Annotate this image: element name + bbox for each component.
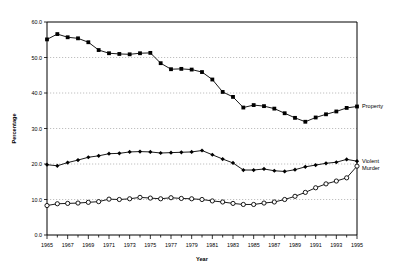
data-point: [200, 197, 204, 201]
data-point: [345, 106, 349, 110]
x-tick-label: 1993: [330, 242, 342, 248]
data-point: [324, 182, 328, 186]
data-point: [231, 95, 235, 99]
data-point: [107, 51, 111, 55]
data-point: [45, 203, 49, 207]
legend-label-murder: Murder: [362, 165, 380, 171]
x-tick-label: 1983: [227, 242, 239, 248]
x-tick-label: 1981: [206, 242, 218, 248]
x-tick-label: 1991: [310, 242, 322, 248]
data-point: [345, 157, 349, 161]
data-point: [159, 197, 163, 201]
plot-border: [47, 22, 357, 235]
data-point: [334, 160, 338, 164]
data-point: [97, 200, 101, 204]
data-point: [221, 157, 225, 161]
data-point: [76, 158, 80, 162]
data-point: [138, 195, 142, 199]
x-tick-label: 1971: [103, 242, 115, 248]
data-point: [262, 201, 266, 205]
data-point: [97, 154, 101, 158]
data-point: [283, 169, 287, 173]
data-point: [107, 197, 111, 201]
data-point: [272, 169, 276, 173]
legend-label-violent: Violent: [362, 158, 379, 164]
data-point: [138, 149, 142, 153]
data-point: [76, 201, 80, 205]
data-point: [334, 110, 338, 114]
y-tick-label: 20.0: [32, 161, 43, 167]
data-point: [107, 152, 111, 156]
x-tick-label: 1973: [124, 242, 136, 248]
data-point: [200, 70, 204, 74]
legend-layer: PropertyViolentMurder: [362, 103, 383, 170]
data-point: [179, 196, 183, 200]
data-point: [334, 179, 338, 183]
data-point: [314, 163, 318, 167]
data-point: [262, 104, 266, 108]
data-point: [179, 150, 183, 154]
data-point: [148, 150, 152, 154]
data-point: [355, 164, 359, 168]
data-point: [86, 155, 90, 159]
gridlines: [47, 58, 357, 200]
line-chart: 0.010.020.030.040.050.060.0 196519671969…: [0, 0, 394, 269]
x-tick-label: 1967: [62, 242, 74, 248]
data-point: [117, 52, 121, 56]
data-point: [355, 105, 359, 109]
x-tick-label: 1985: [248, 242, 260, 248]
y-tick-label: 10.0: [32, 197, 43, 203]
y-tick-label: 0.0: [35, 232, 43, 238]
data-point: [86, 200, 90, 204]
data-point: [148, 196, 152, 200]
data-point: [252, 168, 256, 172]
y-tick-label: 40.0: [32, 90, 43, 96]
data-point: [190, 197, 194, 201]
data-point: [241, 106, 245, 110]
x-tick-label: 1975: [144, 242, 156, 248]
x-tick-label: 1977: [165, 242, 177, 248]
data-point: [252, 103, 256, 107]
x-tick-label: 1995: [351, 242, 363, 248]
data-point: [169, 151, 173, 155]
data-point: [324, 112, 328, 116]
data-point: [303, 165, 307, 169]
data-point: [97, 48, 101, 52]
data-point: [272, 107, 276, 111]
y-axis-title: Percentage: [11, 113, 17, 143]
data-point: [128, 52, 132, 56]
data-point: [55, 202, 59, 206]
x-tick-label: 1987: [268, 242, 280, 248]
x-tick-label: 1979: [186, 242, 198, 248]
data-point: [283, 197, 287, 201]
data-point: [303, 120, 307, 124]
series-line: [47, 151, 357, 172]
data-point: [231, 201, 235, 205]
x-axis-ticks: 1965196719691971197319751977197919811983…: [41, 235, 363, 248]
data-point: [190, 150, 194, 154]
data-point: [138, 51, 142, 55]
data-point: [45, 37, 49, 41]
data-point: [210, 153, 214, 157]
data-point: [159, 151, 163, 155]
y-tick-label: 60.0: [32, 19, 43, 25]
y-tick-label: 50.0: [32, 55, 43, 61]
data-point: [128, 150, 132, 154]
series-violent: [45, 148, 359, 173]
data-point: [66, 201, 70, 205]
data-point: [179, 67, 183, 71]
data-point: [55, 32, 59, 36]
x-tick-label: 1969: [82, 242, 94, 248]
data-point: [117, 151, 121, 155]
data-point: [86, 40, 90, 44]
data-point: [293, 168, 297, 172]
data-point: [210, 78, 214, 82]
data-point: [262, 167, 266, 171]
data-point: [241, 202, 245, 206]
data-point: [55, 164, 59, 168]
data-point: [117, 197, 121, 201]
data-point: [314, 186, 318, 190]
data-point: [45, 163, 49, 167]
x-tick-label: 1989: [289, 242, 301, 248]
plot-frame: [47, 22, 357, 235]
